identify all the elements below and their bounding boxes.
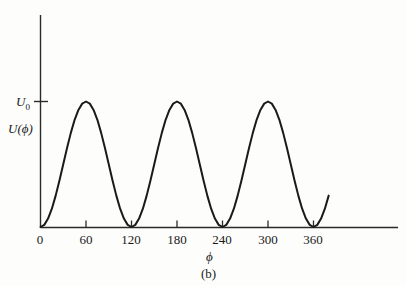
y-axis-label-u0-subscript: 0	[25, 102, 30, 112]
x-tick-label-240: 240	[202, 233, 242, 246]
figure-caption: (b)	[201, 267, 216, 280]
x-tick-label-0: 0	[20, 233, 60, 246]
y-axis-label-function: U(ϕ)	[8, 122, 33, 135]
y-axis-label-u0: U0	[16, 95, 30, 112]
x-tick-label-180: 180	[157, 233, 197, 246]
x-axis-label: ϕ	[206, 250, 213, 263]
x-tick-label-360: 360	[293, 233, 333, 246]
figure-container: U0 U(ϕ) 0 60 120 180 240 300 360 ϕ (b)	[0, 0, 406, 285]
potential-curve	[41, 102, 329, 228]
x-axis-ticks	[86, 221, 314, 228]
y-axis-label-u0-text: U	[16, 94, 25, 109]
x-tick-label-60: 60	[66, 233, 106, 246]
x-tick-label-300: 300	[248, 233, 288, 246]
x-tick-label-120: 120	[111, 233, 151, 246]
